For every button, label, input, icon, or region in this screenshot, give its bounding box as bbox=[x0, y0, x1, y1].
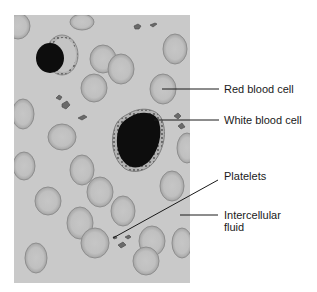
red-blood-cell bbox=[35, 187, 61, 215]
label-platelets: Platelets bbox=[224, 170, 266, 182]
red-blood-cell bbox=[81, 228, 109, 258]
red-blood-cell bbox=[163, 34, 187, 64]
label-intercellular-fluid: Intercellular fluid bbox=[224, 209, 281, 233]
red-blood-cell bbox=[108, 54, 134, 84]
red-blood-cell bbox=[13, 152, 35, 180]
red-blood-cell bbox=[70, 155, 94, 185]
red-blood-cell bbox=[177, 133, 197, 163]
red-blood-cell bbox=[25, 243, 47, 273]
red-blood-cell bbox=[87, 177, 113, 207]
label-white-blood-cell: White blood cell bbox=[224, 114, 302, 126]
red-blood-cell bbox=[172, 228, 192, 258]
red-blood-cell bbox=[70, 14, 94, 30]
red-blood-cell bbox=[48, 124, 76, 150]
red-blood-cell bbox=[111, 196, 135, 226]
red-blood-cell bbox=[133, 247, 159, 275]
blood-smear-diagram bbox=[0, 0, 317, 292]
red-blood-cell bbox=[12, 99, 34, 129]
red-blood-cell bbox=[6, 13, 30, 39]
red-blood-cell bbox=[160, 171, 184, 201]
label-red-blood-cell: Red blood cell bbox=[224, 83, 294, 95]
red-blood-cell bbox=[81, 74, 107, 102]
